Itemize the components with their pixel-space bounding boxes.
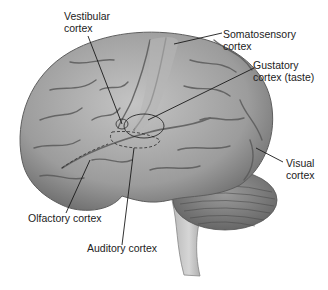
label-somatosensory-cortex: Somatosensory cortex — [223, 28, 296, 52]
label-auditory-cortex: Auditory cortex — [87, 242, 157, 254]
label-vestibular-cortex: Vestibular cortex — [64, 10, 110, 34]
label-gustatory-cortex: Gustatory cortex (taste) — [253, 59, 314, 83]
brain-diagram: Vestibular cortex Somatosensory cortex G… — [0, 0, 328, 290]
label-olfactory-cortex: Olfactory cortex — [28, 212, 102, 224]
label-visual-cortex: Visual cortex — [286, 157, 315, 181]
